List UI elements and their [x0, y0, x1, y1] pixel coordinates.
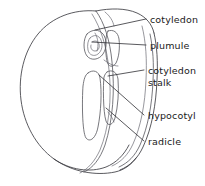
hilum-notch: [105, 12, 114, 26]
seed-top-ridge: [96, 9, 154, 33]
leader-line-radicle: [106, 108, 144, 141]
seed-outer-outline: [20, 11, 129, 170]
label-radicle: radicle: [148, 136, 181, 148]
leader-line-hypocotyl: [99, 75, 144, 115]
label-cotyledon-stalk-line1: cotyledon: [148, 65, 196, 76]
leader-line-cotyledon-stalk: [108, 70, 144, 76]
leader-line-cotyledon: [95, 19, 146, 30]
seed-far-rim: [120, 33, 157, 170]
cotyledon-cut-face-edge: [84, 11, 113, 172]
label-cotyledon-stalk: cotyledonstalk: [148, 65, 196, 88]
label-hypocotyl: hypocotyl: [148, 110, 196, 122]
near-cotyledon-surface: [80, 14, 110, 173]
label-cotyledon: cotyledon: [150, 14, 198, 26]
hypocotyl-lobe: [82, 71, 101, 140]
seed-drawing: [0, 0, 205, 186]
label-cotyledon-stalk-line2: stalk: [148, 77, 171, 88]
plumule-inner-curl-1: [88, 36, 102, 56]
label-plumule: plumule: [150, 40, 190, 52]
seed-diagram-figure: cotyledon plumule cotyledonstalk hypocot…: [0, 0, 205, 186]
seed-bottom-edge: [54, 158, 136, 173]
